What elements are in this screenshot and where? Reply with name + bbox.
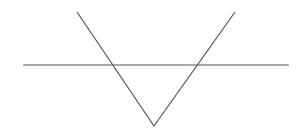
diagram-canvas xyxy=(0,0,305,129)
geometry-diagram xyxy=(0,0,305,129)
v-shape xyxy=(77,12,235,126)
